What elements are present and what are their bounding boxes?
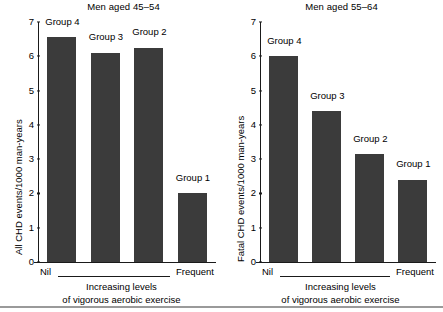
panel-title: Men aged 55–64 <box>222 1 443 12</box>
bars-group: Group 4Group 3Group 2Group 1 <box>40 22 214 262</box>
y-tick-label: 4 <box>29 120 34 130</box>
plot-area: 01234567 Group 4Group 3Group 2Group 1 Ni… <box>40 22 214 262</box>
bar-label: Group 2 <box>353 134 387 144</box>
panel-title: Men aged 45–54 <box>0 1 221 12</box>
bar-item: Group 2 <box>134 22 163 262</box>
bar-item: Group 4 <box>269 22 298 262</box>
bar-item: Group 3 <box>91 22 120 262</box>
x-axis-start-label: Nil <box>40 267 51 277</box>
bar <box>91 53 120 262</box>
y-tick-label: 2 <box>29 189 34 199</box>
bar-label: Group 2 <box>132 27 166 37</box>
y-tick-label: 3 <box>29 154 34 164</box>
x-axis-caption-line1: Increasing levels <box>22 281 221 294</box>
y-tick-label: 2 <box>251 189 256 199</box>
x-axis-caption-line2: of vigorous aerobic exercise <box>22 294 221 307</box>
two-panel-bar-chart-figure: Men aged 45–54 All CHD events/1000 man-y… <box>0 0 443 312</box>
bar-label: Group 4 <box>267 36 301 46</box>
x-axis-caption-line1: Increasing levels <box>238 281 443 294</box>
x-axis-gradient-rule <box>280 276 390 277</box>
chart-panel-men-45-54: Men aged 45–54 All CHD events/1000 man-y… <box>0 0 221 312</box>
y-tick-label: 0 <box>29 257 34 267</box>
bar-item: Group 1 <box>398 22 427 262</box>
x-axis-caption: Increasing levels of vigorous aerobic ex… <box>0 281 221 306</box>
x-axis-start-label: Nil <box>262 267 273 277</box>
plot-area: 01234567 Group 4Group 3Group 2Group 1 Ni… <box>262 22 434 262</box>
y-axis-label: Fatal CHD events/1000 man-years <box>235 116 246 262</box>
bar <box>178 193 207 262</box>
x-axis-end-label: Frequent <box>176 267 214 277</box>
bar-label: Group 3 <box>89 32 123 42</box>
x-axis-gradient-rule <box>58 276 170 277</box>
bar <box>355 154 384 262</box>
y-tick-label: 6 <box>29 52 34 62</box>
y-tick-label: 3 <box>251 154 256 164</box>
bar-label: Group 3 <box>310 91 344 101</box>
bar <box>134 48 163 262</box>
bar-item: Group 2 <box>355 22 384 262</box>
bar <box>269 56 298 262</box>
y-tick-label: 5 <box>29 86 34 96</box>
footer-rule <box>0 306 443 308</box>
x-axis-range: NilFrequent <box>40 267 214 281</box>
y-tick-label: 7 <box>29 17 34 27</box>
y-tick-label: 5 <box>251 86 256 96</box>
y-tick-label: 1 <box>251 223 256 233</box>
chart-panel-men-55-64: Men aged 55–64 Fatal CHD events/1000 man… <box>222 0 443 312</box>
x-axis-caption-line2: of vigorous aerobic exercise <box>238 294 443 307</box>
bar <box>47 37 76 262</box>
x-axis-range: NilFrequent <box>262 267 434 281</box>
bar <box>398 180 427 262</box>
bar-item: Group 1 <box>178 22 207 262</box>
bar-item: Group 3 <box>312 22 341 262</box>
y-tick-label: 1 <box>29 223 34 233</box>
y-tick-label: 0 <box>251 257 256 267</box>
bar-label: Group 4 <box>45 17 79 27</box>
y-tick-label: 7 <box>251 17 256 27</box>
bar-label: Group 1 <box>176 173 210 183</box>
bars-group: Group 4Group 3Group 2Group 1 <box>262 22 434 262</box>
y-tick-label: 4 <box>251 120 256 130</box>
bar-label: Group 1 <box>396 159 430 169</box>
x-axis-caption: Increasing levels of vigorous aerobic ex… <box>222 281 443 306</box>
bar-item: Group 4 <box>47 22 76 262</box>
bar <box>312 111 341 262</box>
y-axis-label: All CHD events/1000 man-years <box>13 119 24 255</box>
y-tick-label: 6 <box>251 52 256 62</box>
x-axis-end-label: Frequent <box>396 267 434 277</box>
